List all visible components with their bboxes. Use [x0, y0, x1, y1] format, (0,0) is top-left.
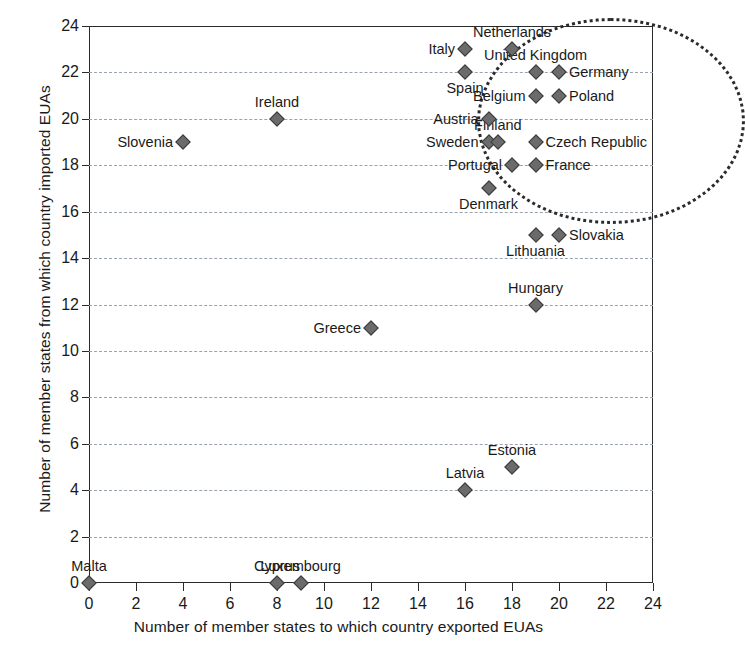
data-point-label: Portugal: [448, 157, 502, 173]
gridline: [89, 258, 653, 259]
x-tick-label: 14: [409, 595, 427, 613]
x-tick-mark: [606, 583, 607, 591]
data-point-label: Latvia: [446, 465, 485, 481]
data-point-label: Lithuania: [506, 243, 565, 259]
y-axis-title: Number of member states from which count…: [36, 69, 54, 529]
x-tick-label: 20: [550, 595, 568, 613]
x-tick-label: 22: [597, 595, 615, 613]
x-axis-title: Number of member states to which country…: [0, 618, 677, 636]
x-tick-label: 6: [226, 595, 235, 613]
y-tick-label: 14: [61, 249, 79, 267]
y-tick-label: 22: [61, 63, 79, 81]
gridline: [89, 490, 653, 491]
data-point-label: France: [546, 157, 591, 173]
y-tick-label: 24: [61, 17, 79, 35]
y-tick-label: 18: [61, 156, 79, 174]
x-tick-mark: [183, 583, 184, 591]
gridline: [89, 537, 653, 538]
data-point-label: Austria: [433, 111, 478, 127]
gridline: [89, 444, 653, 445]
y-tick-label: 0: [70, 574, 79, 592]
y-tick-label: 8: [70, 388, 79, 406]
data-point-label: United Kingdom: [484, 47, 587, 63]
y-tick-mark: [82, 537, 89, 538]
y-tick-label: 10: [61, 342, 79, 360]
x-tick-mark: [465, 583, 466, 591]
data-point-label: Estonia: [488, 442, 536, 458]
x-tick-mark: [418, 583, 419, 591]
data-point-label: Luxembourg: [260, 558, 341, 574]
gridline: [89, 351, 653, 352]
x-tick-mark: [653, 583, 654, 591]
gridline: [89, 212, 653, 213]
data-point-label: Greece: [313, 320, 361, 336]
y-tick-mark: [82, 258, 89, 259]
gridline: [89, 119, 653, 120]
x-tick-label: 12: [362, 595, 380, 613]
x-tick-mark: [136, 583, 137, 591]
x-tick-label: 8: [273, 595, 282, 613]
data-point-label: Poland: [569, 88, 614, 104]
x-tick-label: 4: [179, 595, 188, 613]
y-tick-label: 20: [61, 110, 79, 128]
x-tick-label: 2: [132, 595, 141, 613]
y-tick-mark: [82, 119, 89, 120]
y-tick-label: 12: [61, 296, 79, 314]
y-tick-mark: [82, 397, 89, 398]
x-tick-label: 24: [644, 595, 662, 613]
y-tick-mark: [82, 305, 89, 306]
y-tick-label: 16: [61, 203, 79, 221]
gridline: [89, 305, 653, 306]
data-point-label: Czech Republic: [546, 134, 648, 150]
data-point-label: Germany: [569, 64, 629, 80]
x-tick-mark: [559, 583, 560, 591]
data-point-label: Netherlands: [473, 24, 551, 40]
x-tick-label: 16: [456, 595, 474, 613]
x-tick-mark: [512, 583, 513, 591]
y-tick-mark: [82, 72, 89, 73]
data-point-label: Spain: [446, 80, 483, 96]
y-tick-mark: [82, 351, 89, 352]
x-tick-label: 0: [85, 595, 94, 613]
x-tick-label: 10: [315, 595, 333, 613]
y-tick-mark: [82, 212, 89, 213]
y-tick-mark: [82, 26, 89, 27]
y-tick-label: 4: [70, 481, 79, 499]
plot-area: 024681012141618202224 024681012141618202…: [89, 26, 653, 583]
data-point-label: Ireland: [255, 94, 299, 110]
data-point-label: Slovakia: [569, 227, 624, 243]
data-point-label: Sweden: [426, 134, 478, 150]
x-tick-mark: [371, 583, 372, 591]
x-tick-label: 18: [503, 595, 521, 613]
data-point-label: Slovenia: [117, 134, 173, 150]
y-tick-mark: [82, 490, 89, 491]
x-tick-mark: [230, 583, 231, 591]
y-tick-mark: [82, 165, 89, 166]
data-point-label: Italy: [428, 41, 455, 57]
gridline: [89, 397, 653, 398]
data-point-label: Denmark: [459, 196, 518, 212]
y-tick-label: 2: [70, 528, 79, 546]
y-tick-mark: [82, 444, 89, 445]
data-point-label: Hungary: [508, 280, 563, 296]
data-point-label: Malta: [71, 558, 106, 574]
y-tick-label: 6: [70, 435, 79, 453]
x-tick-mark: [324, 583, 325, 591]
